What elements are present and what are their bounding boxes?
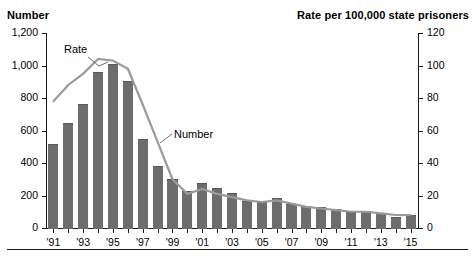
number-leader-line xyxy=(160,134,172,143)
footer-rule xyxy=(7,249,468,250)
rate-leader-line xyxy=(88,57,108,66)
annotation-leader-lines xyxy=(0,0,475,259)
chart-figure: Number Rate per 100,000 state prisoners … xyxy=(0,0,475,259)
